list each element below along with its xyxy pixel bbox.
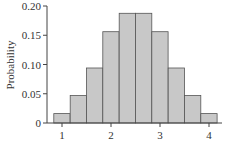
- x-tick-label: 3: [157, 129, 163, 141]
- y-tick-label: 0.20: [22, 0, 42, 12]
- x-tick-label: 2: [108, 129, 114, 141]
- histogram-bar: [103, 32, 119, 123]
- y-ticks: 00.050.100.150.20: [22, 0, 47, 129]
- y-tick-label: 0: [36, 117, 42, 129]
- histogram-bar: [201, 114, 217, 123]
- histogram-bar: [54, 114, 70, 123]
- histogram-bar: [87, 68, 103, 123]
- y-tick-label: 0.10: [22, 59, 42, 71]
- histogram-bar: [119, 13, 135, 123]
- histogram-bar: [168, 68, 184, 123]
- y-tick-label: 0.05: [22, 88, 42, 100]
- x-tick-label: 1: [59, 129, 65, 141]
- histogram-bar: [136, 13, 152, 123]
- y-tick-label: 0.15: [22, 29, 42, 41]
- histogram-bar: [70, 96, 86, 124]
- x-ticks: 1234: [59, 123, 212, 141]
- probability-histogram: 00.050.100.150.20 1234 Probability: [0, 0, 228, 143]
- histogram-bar: [185, 96, 201, 124]
- y-axis-title: Probability: [4, 40, 16, 89]
- bars-group: [54, 13, 217, 123]
- histogram-bar: [152, 32, 168, 123]
- x-tick-label: 4: [206, 129, 212, 141]
